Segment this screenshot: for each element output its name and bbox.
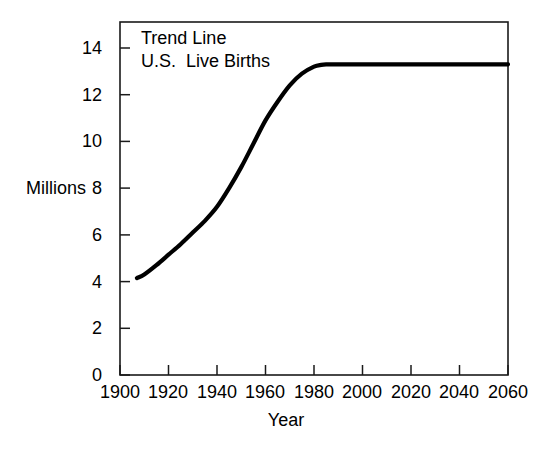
y-tick-label-14: 14 — [62, 39, 102, 57]
x-tick-label-1960: 1960 — [237, 383, 293, 401]
x-tick-label-2060: 2060 — [480, 383, 536, 401]
y-axis-title: Millions — [26, 179, 86, 197]
chart-annotation: Trend Line U.S. Live Births — [141, 27, 270, 73]
y-tick-label-12: 12 — [62, 86, 102, 104]
x-tick-label-2000: 2000 — [334, 383, 390, 401]
x-axis-title: Year — [258, 411, 314, 429]
y-tick-label-0: 0 — [62, 366, 102, 384]
x-tick-label-1920: 1920 — [140, 383, 196, 401]
y-tick-label-2: 2 — [62, 319, 102, 337]
trend-line-curve — [137, 64, 508, 278]
x-axis-ticks — [120, 365, 508, 375]
x-tick-label-2040: 2040 — [431, 383, 487, 401]
y-axis-ticks — [120, 48, 130, 375]
y-tick-label-4: 4 — [62, 273, 102, 291]
y-tick-label-6: 6 — [62, 226, 102, 244]
chart-annotation-line-1: Trend Line — [141, 27, 270, 50]
plot-frame — [120, 22, 508, 375]
trend-line-chart: 0 2 4 6 8 10 12 14 1900 1920 1940 1960 1… — [0, 0, 557, 452]
y-tick-label-10: 10 — [62, 132, 102, 150]
chart-annotation-line-2: U.S. Live Births — [141, 50, 270, 73]
